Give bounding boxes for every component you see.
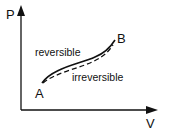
x-axis-arrow-icon: [146, 106, 158, 114]
point-b-label: B: [117, 32, 126, 45]
reversible-label: reversible: [35, 47, 81, 58]
y-axis-arrow-icon: [17, 5, 25, 16]
pv-diagram: [0, 0, 169, 137]
y-axis-label: P: [6, 8, 15, 21]
point-a-label: A: [35, 87, 44, 100]
irreversible-label: irreversible: [72, 72, 123, 83]
x-axis-label: V: [146, 117, 155, 130]
